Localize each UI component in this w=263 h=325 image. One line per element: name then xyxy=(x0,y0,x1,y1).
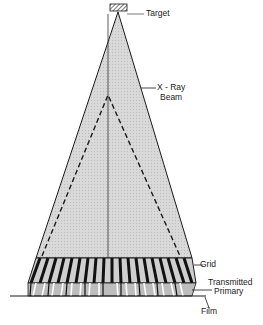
transmitted-primary xyxy=(28,283,196,296)
label-beam: Beam xyxy=(160,93,182,102)
label-primary: Primary xyxy=(214,287,243,296)
target-anode-icon xyxy=(110,4,127,11)
xray-beam xyxy=(36,12,192,258)
label-film: Film xyxy=(201,307,217,316)
label-grid: Grid xyxy=(200,260,216,269)
label-xray: X - Ray xyxy=(157,83,185,92)
label-target: Target xyxy=(146,9,170,18)
grid xyxy=(28,258,196,283)
